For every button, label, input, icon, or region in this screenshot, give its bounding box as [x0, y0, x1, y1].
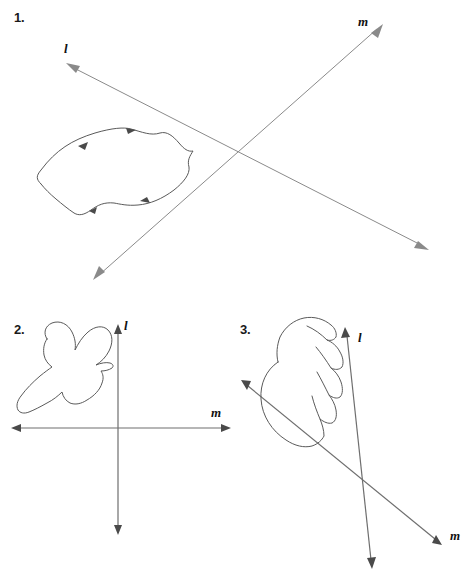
figure-3-label-m: m	[450, 528, 460, 544]
figure-3-canvas	[232, 300, 466, 584]
figure-2-canvas	[0, 300, 236, 584]
worksheet-page: 1.	[0, 0, 466, 584]
figure-1-number: 1.	[14, 10, 24, 25]
figure-2-number: 2.	[14, 322, 24, 337]
figure-1-canvas	[0, 0, 466, 300]
figure-2-bird-shape	[17, 322, 113, 413]
figure-3-line-m	[241, 380, 442, 545]
figure-1-label-m: m	[358, 14, 368, 30]
figure-1-line-m	[93, 24, 383, 280]
figure-2-label-m: m	[211, 405, 221, 421]
figure-2-line-m	[11, 424, 231, 432]
figure-1: 1.	[0, 0, 466, 300]
figure-3-number: 3.	[240, 322, 250, 337]
figure-3-shell-shape	[261, 317, 343, 446]
figure-2-label-l: l	[124, 318, 128, 334]
figure-2: 2. l m	[0, 300, 236, 584]
figure-3: 3. l m	[232, 300, 466, 584]
figure-2-line-l	[114, 324, 122, 535]
figure-1-leaf-shape	[37, 128, 193, 215]
figure-1-label-l: l	[64, 41, 68, 57]
figure-3-label-l: l	[358, 330, 362, 346]
figure-3-line-l	[341, 327, 376, 569]
figure-1-line-l	[66, 63, 429, 250]
